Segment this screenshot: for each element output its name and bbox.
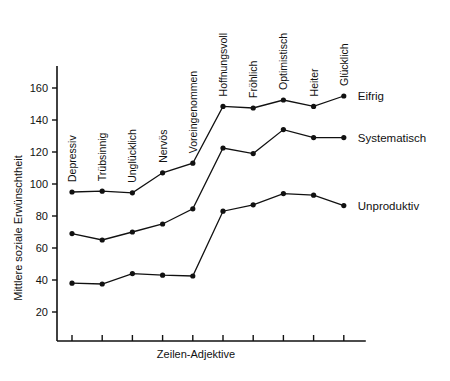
data-point xyxy=(341,93,346,98)
data-point xyxy=(251,151,256,156)
data-point xyxy=(341,203,346,208)
series-label-systematisch: Systematisch xyxy=(358,132,426,144)
y-axis-tick-label: 20 xyxy=(36,306,48,318)
line-chart: 20406080100120140160 DepressivTrübsinnig… xyxy=(0,0,450,381)
y-axis-tick-label: 80 xyxy=(36,210,48,222)
x-category-label: Trübsinnig xyxy=(96,132,108,181)
data-point xyxy=(220,209,225,214)
data-point xyxy=(251,202,256,207)
data-point xyxy=(311,135,316,140)
x-category-label: Glücklich xyxy=(338,43,350,86)
y-axis-tick-label: 120 xyxy=(30,146,48,158)
x-category-label: Optimistisch xyxy=(277,33,289,90)
data-point xyxy=(220,104,225,109)
series-inline-labels: EifrigSystematischUnproduktiv xyxy=(358,90,426,212)
x-category-label: Depressiv xyxy=(66,135,78,182)
y-axis-title: Mittlere soziale Erwünschtheit xyxy=(12,155,24,301)
data-point xyxy=(281,127,286,132)
data-point xyxy=(281,191,286,196)
data-point xyxy=(69,189,74,194)
data-point xyxy=(190,206,195,211)
y-axis-tick-label: 60 xyxy=(36,242,48,254)
data-point xyxy=(160,221,165,226)
data-point xyxy=(130,229,135,234)
y-axis-ticks: 20406080100120140160 xyxy=(30,82,57,318)
x-category-label: Nervös xyxy=(157,130,169,163)
y-axis-tick-label: 100 xyxy=(30,178,48,190)
data-point xyxy=(190,273,195,278)
x-axis-ticks xyxy=(72,335,344,341)
data-point xyxy=(69,231,74,236)
data-point xyxy=(311,193,316,198)
series-line-unproduktiv xyxy=(72,194,344,284)
data-point xyxy=(160,273,165,278)
chart-series-group xyxy=(69,93,346,286)
data-point xyxy=(130,190,135,195)
y-axis-tick-label: 160 xyxy=(30,82,48,94)
x-category-label: Hoffnungsvoll xyxy=(217,33,229,96)
series-label-eifrig: Eifrig xyxy=(358,90,384,102)
chart-axes xyxy=(57,66,366,341)
x-axis-title: Zeilen-Adjektive xyxy=(157,348,235,360)
y-axis-tick-label: 140 xyxy=(30,114,48,126)
data-point xyxy=(220,145,225,150)
data-point xyxy=(281,97,286,102)
series-line-systematisch xyxy=(72,130,344,240)
data-point xyxy=(100,281,105,286)
data-point xyxy=(100,189,105,194)
data-point xyxy=(100,237,105,242)
data-point xyxy=(130,271,135,276)
x-category-labels: DepressivTrübsinnigUnglücklichNervösVore… xyxy=(66,33,350,183)
data-point xyxy=(311,104,316,109)
data-point xyxy=(160,170,165,175)
data-point xyxy=(69,281,74,286)
data-point xyxy=(251,105,256,110)
data-point xyxy=(341,135,346,140)
y-axis-tick-label: 40 xyxy=(36,274,48,286)
chart-figure: 20406080100120140160 DepressivTrübsinnig… xyxy=(0,0,450,381)
series-label-unproduktiv: Unproduktiv xyxy=(358,200,420,212)
x-category-label: Unglücklich xyxy=(126,129,138,183)
x-category-label: Voreingenommen xyxy=(187,71,199,153)
data-point xyxy=(190,161,195,166)
x-category-label: Fröhlich xyxy=(247,60,259,98)
x-category-label: Heiter xyxy=(308,68,320,97)
